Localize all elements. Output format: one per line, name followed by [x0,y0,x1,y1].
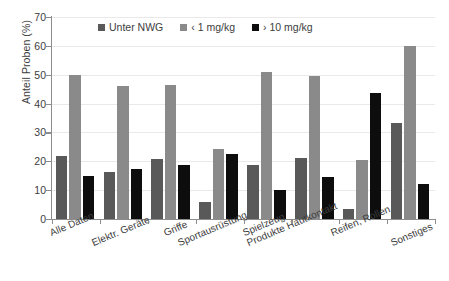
x-tick-mark [100,220,101,224]
bar-group [387,17,435,219]
legend-label: Unter NWG [109,22,163,33]
legend-swatch-icon [180,24,187,31]
bar-group [339,17,387,219]
bar-group [244,17,292,219]
legend-swatch-icon [98,24,105,31]
bar [356,160,368,219]
bar [247,165,259,219]
bars-layer [52,17,435,219]
y-tick-mark [46,161,51,162]
x-tick-mark [291,220,292,224]
x-tick-mark [339,220,340,224]
x-tick-mark [52,220,53,224]
x-axis-label: Sonstiges [389,221,434,248]
bar [309,76,321,219]
y-tick-mark [46,132,51,133]
bar [322,177,334,219]
x-tick-mark [196,220,197,224]
bar [151,159,163,219]
y-tick-mark [46,190,51,191]
x-tick-mark [244,220,245,224]
bar-group [52,17,100,219]
bar-group [148,17,196,219]
legend-label: ‹ 1 mg/kg [191,22,235,33]
bar [261,72,273,219]
plot-area [52,17,435,219]
y-tick-label: 20 [4,155,46,167]
y-tick-label: 60 [4,40,46,52]
x-axis-label: Griffe [162,218,189,238]
legend-swatch-icon [252,24,259,31]
y-tick-label: 0 [4,213,46,225]
bar [370,93,382,219]
bar [131,169,143,219]
bar [199,202,211,219]
bar [69,75,81,219]
x-tick-mark [148,220,149,224]
bar [226,154,238,219]
bar [213,149,225,219]
bar [343,209,355,219]
bar [165,85,177,219]
y-tick-mark [46,75,51,76]
bar [274,190,286,219]
legend-label: › 10 mg/kg [263,22,313,33]
bar-group [100,17,148,219]
bar [391,123,403,219]
bar-chart: Anteil Proben (%) 010203040506070 Unter … [0,0,449,281]
legend-item[interactable]: Unter NWG [98,22,163,33]
bar-group [291,17,339,219]
bar [404,46,416,219]
legend-item[interactable]: ‹ 1 mg/kg [180,22,235,33]
bar [418,184,430,219]
chart-legend: Unter NWG‹ 1 mg/kg› 10 mg/kg [98,22,313,33]
y-tick-label: 40 [4,98,46,110]
y-tick-mark [46,219,51,220]
bar [104,172,116,219]
y-tick-label: 10 [4,184,46,196]
bar [178,165,190,219]
y-tick-label: 50 [4,69,46,81]
y-tick-mark [46,17,51,18]
bar [117,86,129,219]
y-tick-label: 30 [4,126,46,138]
y-tick-mark [46,104,51,105]
x-tick-mark [387,220,388,224]
bar [295,158,307,219]
x-tick-mark [435,220,436,224]
bar [83,176,95,219]
bar-group [196,17,244,219]
y-axis-tick-labels: 010203040506070 [0,0,46,281]
legend-item[interactable]: › 10 mg/kg [252,22,313,33]
y-tick-label: 70 [4,11,46,23]
y-tick-mark [46,46,51,47]
bar [56,156,68,219]
